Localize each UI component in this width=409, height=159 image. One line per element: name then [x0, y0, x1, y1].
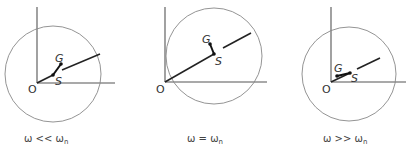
panel-high-speed: O G S: [302, 7, 406, 121]
gs-segment: [53, 64, 61, 75]
label-s: S: [351, 72, 358, 85]
shaft-line-outer: [62, 54, 100, 70]
caption-resonance: ω = ωn: [187, 133, 223, 146]
shaft-line-inner: [37, 75, 53, 83]
label-origin: O: [322, 83, 331, 96]
shaft-line-outer: [357, 58, 380, 69]
label-s: S: [55, 75, 62, 88]
panel-low-speed: O G S: [5, 7, 115, 122]
label-s: S: [215, 55, 222, 68]
caption-high-speed: ω >> ωn: [323, 133, 367, 146]
label-origin: O: [156, 83, 165, 96]
rotor-whirl-diagram: O G S O G S O G S ω << ωn ω = ωn ω >> ωn: [0, 0, 409, 159]
whirl-circle: [166, 8, 262, 104]
caption-low-speed: ω << ωn: [24, 133, 68, 146]
label-origin: O: [28, 83, 37, 96]
shaft-line-outer: [223, 33, 251, 48]
panel-resonance: O G S: [156, 7, 267, 104]
label-g: G: [55, 52, 64, 65]
label-g: G: [334, 62, 343, 75]
shaft-line-inner: [165, 54, 214, 82]
label-g: G: [202, 33, 211, 46]
